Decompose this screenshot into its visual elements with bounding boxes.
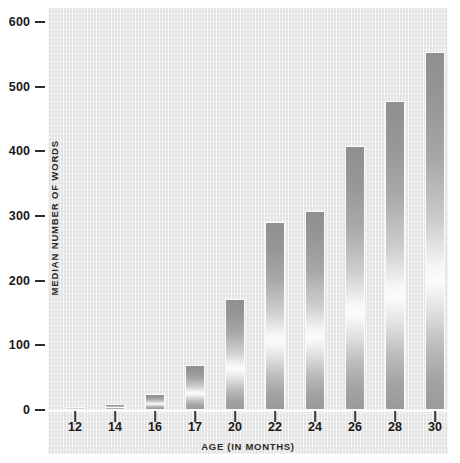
- y-axis-tick-label: 500: [9, 80, 30, 94]
- bar-group: [255, 8, 295, 412]
- bar-group: [175, 8, 215, 412]
- bar[interactable]: [305, 211, 325, 410]
- y-axis-tick-label: 100: [9, 338, 30, 352]
- y-axis-tick: 100: [9, 338, 48, 352]
- y-axis-tick: 400: [9, 144, 48, 158]
- x-axis-tick-labels: 12141617202224262830: [48, 420, 448, 438]
- bar[interactable]: [185, 365, 205, 410]
- y-axis-tick: 600: [9, 15, 48, 29]
- x-axis-tick-label: 28: [375, 420, 415, 434]
- y-axis: 0100200300400500600: [0, 0, 48, 463]
- y-axis-tick-mark: [35, 280, 45, 282]
- bars-layer: [48, 8, 448, 412]
- x-axis-tick-label: 24: [295, 420, 335, 434]
- x-axis-tick-label: 12: [55, 420, 95, 434]
- y-axis-tick-mark: [35, 344, 45, 346]
- bar[interactable]: [105, 404, 125, 410]
- x-axis-tick-label: 22: [255, 420, 295, 434]
- x-axis-tick-label: 14: [95, 420, 135, 434]
- bar[interactable]: [225, 299, 245, 410]
- bar[interactable]: [425, 52, 445, 410]
- y-axis-tick: 300: [9, 209, 48, 223]
- bar[interactable]: [345, 146, 365, 410]
- x-axis-tick-label: 26: [335, 420, 375, 434]
- bar-group: [295, 8, 335, 412]
- bar-group: [215, 8, 255, 412]
- y-axis-tick-label: 600: [9, 15, 30, 29]
- y-axis-tick: 500: [9, 80, 48, 94]
- y-axis-tick-label: 400: [9, 144, 30, 158]
- bar-chart-figure: 0100200300400500600 MEDIAN NUMBER OF WOR…: [0, 0, 460, 463]
- y-axis-tick-mark: [35, 215, 45, 217]
- y-axis-tick-mark: [35, 150, 45, 152]
- bar[interactable]: [145, 394, 165, 410]
- x-axis-title: AGE (IN MONTHS): [48, 441, 448, 452]
- bar[interactable]: [65, 407, 85, 410]
- bar-group: [55, 8, 95, 412]
- bar-group: [135, 8, 175, 412]
- x-axis-tick-label: 20: [215, 420, 255, 434]
- bar-group: [335, 8, 375, 412]
- y-axis-tick-label: 300: [9, 209, 30, 223]
- bar-group: [415, 8, 455, 412]
- bar[interactable]: [385, 101, 405, 410]
- x-axis-tick-label: 16: [135, 420, 175, 434]
- bar[interactable]: [265, 222, 285, 410]
- y-axis-tick: 0: [23, 403, 48, 417]
- y-axis-tick-mark: [35, 409, 45, 411]
- x-axis-tick-label: 30: [415, 420, 455, 434]
- y-axis-tick: 200: [9, 274, 48, 288]
- bar-group: [95, 8, 135, 412]
- y-axis-tick-label: 200: [9, 274, 30, 288]
- y-axis-tick-mark: [35, 86, 45, 88]
- x-axis-tick-label: 17: [175, 420, 215, 434]
- bar-group: [375, 8, 415, 412]
- y-axis-tick-label: 0: [23, 403, 30, 417]
- y-axis-tick-mark: [35, 21, 45, 23]
